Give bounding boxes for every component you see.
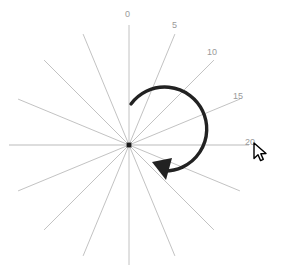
spoke-247 — [18, 145, 129, 191]
polar-plot-svg — [0, 0, 283, 278]
tick-label-20: 20 — [245, 138, 255, 147]
spoke-45 — [129, 60, 214, 145]
clockwise-rotation-arrow — [131, 87, 207, 180]
spoke-202 — [83, 145, 129, 256]
spoke-292 — [18, 99, 129, 145]
tick-label-15: 15 — [233, 92, 243, 101]
spoke-225 — [44, 145, 129, 230]
spoke-135 — [129, 145, 214, 230]
spoke-337 — [83, 34, 129, 145]
tick-label-5: 5 — [172, 21, 177, 30]
spoke-315 — [44, 60, 129, 145]
origin-marker — [127, 143, 132, 148]
tick-label-10: 10 — [207, 48, 217, 57]
tick-label-0: 0 — [125, 10, 130, 19]
polar-chart-canvas: 0 5 10 15 20 — [0, 0, 283, 278]
spoke-67 — [129, 99, 240, 145]
